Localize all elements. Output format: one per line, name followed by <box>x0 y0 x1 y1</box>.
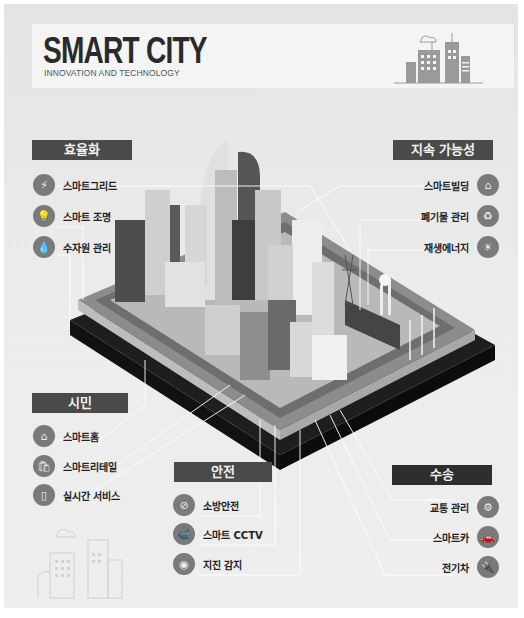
list-item-smart-grid: ⚡ 스마트그리드 <box>33 174 117 196</box>
smart-home-icon: ⌂ <box>33 425 55 447</box>
list-item-earthquake-detection: ◉ 지진 감지 <box>173 553 242 575</box>
solar-panel-icon: ☀ <box>477 236 499 258</box>
list-item-fire-safety: ⊘ 소방안전 <box>173 494 239 516</box>
list-item-traffic-management: 교통 관리 ⚙ <box>430 496 499 518</box>
list-item-realtime-service: ▯ 실시간 서비스 <box>33 484 120 506</box>
section-title-safety: 안전 <box>174 462 272 482</box>
electric-car-icon: 🔌 <box>477 556 499 578</box>
list-item-smart-home: ⌂ 스마트홈 <box>33 425 99 447</box>
section-title-sustainability: 지속 가능성 <box>393 140 493 160</box>
cctv-camera-icon: 📹 <box>173 523 195 545</box>
shopping-bag-icon: 🛍 <box>33 455 55 477</box>
light-bulb-icon: 💡 <box>33 205 55 227</box>
section-title-citizens: 시민 <box>32 393 128 413</box>
section-title-transport: 수송 <box>392 465 492 485</box>
city-skyline-icon <box>394 33 483 83</box>
section-title-efficiency: 효율화 <box>32 140 132 160</box>
smart-house-icon: ⌂ <box>477 174 499 196</box>
faint-skyline-icon <box>38 529 122 598</box>
list-item-water-management: 💧 수자원 관리 <box>33 236 111 258</box>
power-tower-icon: ⚡ <box>33 174 55 196</box>
list-item-smart-car: 스마트카 🚗 <box>433 526 499 548</box>
list-item-smart-cctv: 📹 스마트 CCTV <box>173 523 263 545</box>
traffic-control-icon: ⚙ <box>477 496 499 518</box>
recycle-bin-icon: ♻ <box>477 205 499 227</box>
list-item-smart-lighting: 💡 스마트 조명 <box>33 205 111 227</box>
earthquake-sensor-icon: ◉ <box>173 553 195 575</box>
list-item-smart-retail: 🛍 스마트리테일 <box>33 455 117 477</box>
no-fire-icon: ⊘ <box>173 494 195 516</box>
water-tap-icon: 💧 <box>33 236 55 258</box>
list-item-electric-car: 전기차 🔌 <box>442 556 499 578</box>
mobile-phone-icon: ▯ <box>33 484 55 506</box>
list-item-smart-building: 스마트빌딩 ⌂ <box>424 174 499 196</box>
smart-car-icon: 🚗 <box>477 526 499 548</box>
list-item-waste-management: 폐기물 관리 ♻ <box>421 205 499 227</box>
list-item-renewable-energy: 재생에너지 ☀ <box>424 236 499 258</box>
